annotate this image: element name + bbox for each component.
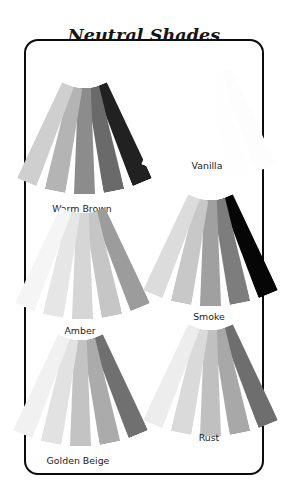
swatch-strips [150,326,270,444]
swatch-fan-label-rust: Rust [134,432,284,443]
page-title: Neutral Shades [0,25,288,45]
swatch-fan-label-smoke: Smoke [134,311,284,322]
swatch-strips [24,84,144,202]
swatch-fan-amber[interactable] [22,209,142,327]
swatch-fan-golden-beige[interactable] [20,336,140,454]
swatch-fan-rust[interactable] [150,326,270,444]
swatch-card-page: Neutral Shades Warm Brown Vanilla Amber … [0,0,288,494]
swatch-fan-warm-brown[interactable] [24,84,144,202]
swatch-strips [150,196,270,314]
swatch-fan-label-vanilla: Vanilla [132,160,282,171]
swatch-fan-smoke[interactable] [150,196,270,314]
swatch-strips [22,209,142,327]
swatch-fan-label-golden-beige: Golden Beige [3,455,153,466]
swatch-fan-label-amber: Amber [5,325,155,336]
swatch-strips [20,336,140,454]
